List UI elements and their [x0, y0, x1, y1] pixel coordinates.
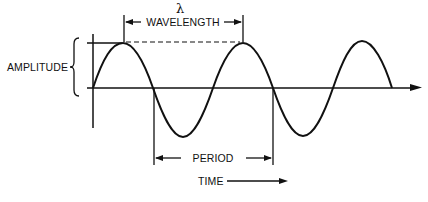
axis-arrowhead — [410, 84, 422, 91]
period-label: PERIOD — [193, 152, 234, 164]
sine-wave — [93, 41, 392, 137]
lambda-symbol: λ — [176, 1, 184, 16]
wavelength-label: WAVELENGTH — [146, 16, 219, 28]
time-label: TIME — [198, 175, 223, 187]
period-right-arrowhead — [264, 155, 272, 161]
wavelength-left-arrowhead — [125, 19, 133, 25]
time-arrowhead — [279, 178, 288, 184]
wave-diagram: λ WAVELENGTH AMPLITUDE PERIOD TIME — [0, 0, 428, 202]
amplitude-label: AMPLITUDE — [7, 61, 68, 73]
period-left-arrowhead — [155, 155, 163, 161]
wavelength-right-arrowhead — [234, 19, 242, 25]
amplitude-brace — [70, 38, 79, 96]
